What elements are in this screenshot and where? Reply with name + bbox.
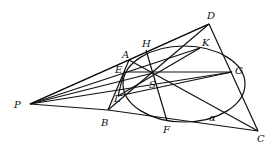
label-H: H (141, 38, 151, 49)
label-A: A (121, 49, 129, 60)
segment-PS (30, 73, 153, 104)
label-L: L (113, 93, 121, 104)
segment-PB (30, 104, 108, 110)
label-alpha: α (209, 112, 216, 123)
geometry-diagram: P A B D C H K G E L F S α (0, 0, 280, 152)
segment-LS (118, 72, 232, 96)
segment-DB (108, 24, 209, 110)
label-C: C (257, 133, 265, 144)
label-F: F (162, 124, 171, 135)
label-G: G (235, 65, 243, 76)
label-E: E (114, 64, 123, 75)
label-D: D (206, 10, 215, 21)
segment-BC (108, 110, 258, 131)
label-P: P (13, 99, 21, 110)
label-S: S (149, 79, 156, 90)
label-K: K (201, 37, 210, 48)
label-B: B (100, 117, 108, 128)
segment-DC (209, 24, 258, 131)
